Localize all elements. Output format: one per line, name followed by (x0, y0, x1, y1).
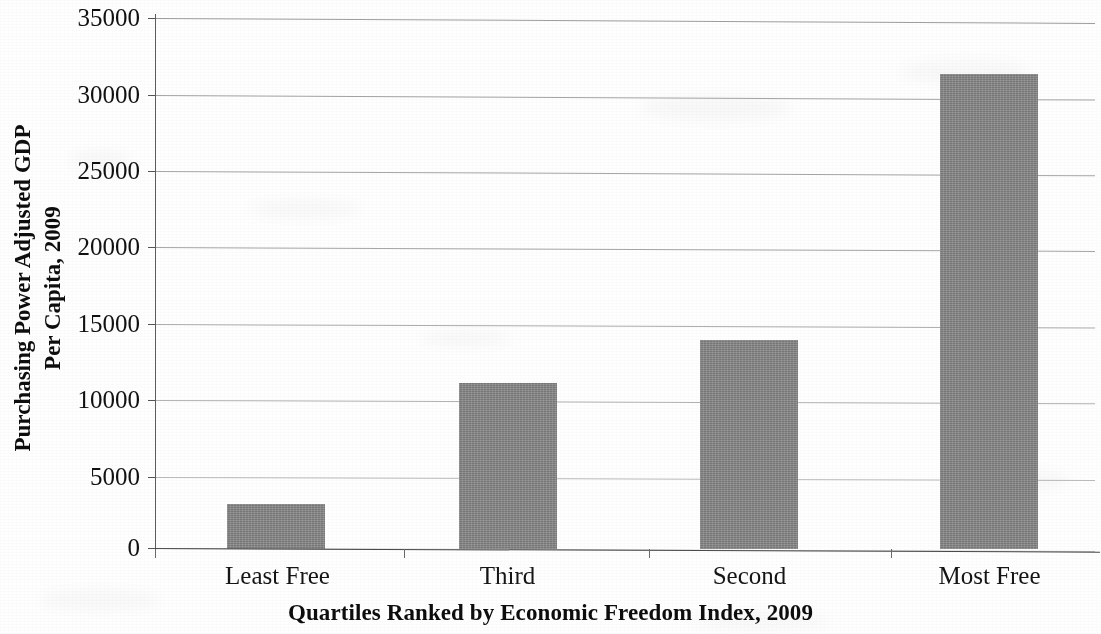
y-axis-title-line-1: Purchasing Power Adjusted GDP (8, 0, 38, 588)
x-category-label-least-free: Least Free (180, 562, 375, 590)
y-axis-title-line-2: Per Capita, 2009 (38, 0, 68, 588)
scanned-page: 35000 30000 25000 20000 15000 10000 5000… (0, 0, 1101, 634)
bar-third[interactable] (459, 383, 557, 549)
bar-most-free[interactable] (940, 74, 1038, 549)
bar-chart: 35000 30000 25000 20000 15000 10000 5000… (0, 0, 1101, 634)
y-axis-line (155, 14, 156, 552)
y-axis-title: Purchasing Power Adjusted GDP Per Capita… (8, 0, 68, 588)
gridline-35000 (155, 18, 1095, 24)
bar-least-free[interactable] (227, 504, 325, 549)
x-category-label-third: Third (410, 562, 605, 590)
x-axis-title: Quartiles Ranked by Economic Freedom Ind… (0, 600, 1101, 626)
x-category-label-second: Second (652, 562, 847, 590)
x-category-label-most-free: Most Free (892, 562, 1087, 590)
bar-second[interactable] (700, 340, 798, 549)
